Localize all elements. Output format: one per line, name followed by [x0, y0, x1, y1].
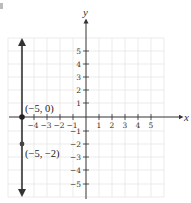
point-neg5-neg2: [20, 142, 25, 147]
x-tick-label: −4: [27, 121, 38, 130]
x-tick-label: 3: [123, 121, 128, 130]
point-label-neg5-0: (−5, 0): [25, 103, 54, 115]
x-tick-label: −3: [40, 121, 51, 130]
y-tick-label: 2: [76, 86, 81, 95]
x-tick-label: 2: [110, 121, 115, 130]
x-tick-label: 4: [136, 121, 141, 130]
y-tick-label: 4: [76, 60, 81, 69]
x-tick-label: 1: [97, 121, 102, 130]
x-tick-labels: −4 −3 −2 −1 1 2 3 4 5: [27, 121, 153, 130]
point-neg5-0: [19, 114, 25, 120]
y-tick-label: 3: [76, 73, 81, 82]
y-tick-labels: 5 4 3 2 1 −1 −2 −3 −4 −5: [70, 47, 81, 189]
coordinate-plane: x y −4 −3 −2 −1 1 2 3 4 5 5 4: [0, 0, 191, 203]
y-tick-label: −1: [70, 127, 81, 136]
y-tick-label: −3: [70, 153, 81, 162]
x-axis-label: x: [183, 111, 189, 123]
y-tick-label: 1: [76, 99, 81, 108]
y-tick-label: 5: [76, 47, 81, 56]
x-tick-label: 5: [149, 121, 154, 130]
y-tick-label: −5: [70, 180, 81, 189]
point-label-neg5-neg2: (−5, −2): [25, 148, 60, 160]
x-tick-label: −2: [53, 121, 64, 130]
y-tick-label: −2: [70, 140, 81, 149]
y-tick-label: −4: [70, 166, 81, 175]
y-axis-label: y: [82, 6, 88, 18]
